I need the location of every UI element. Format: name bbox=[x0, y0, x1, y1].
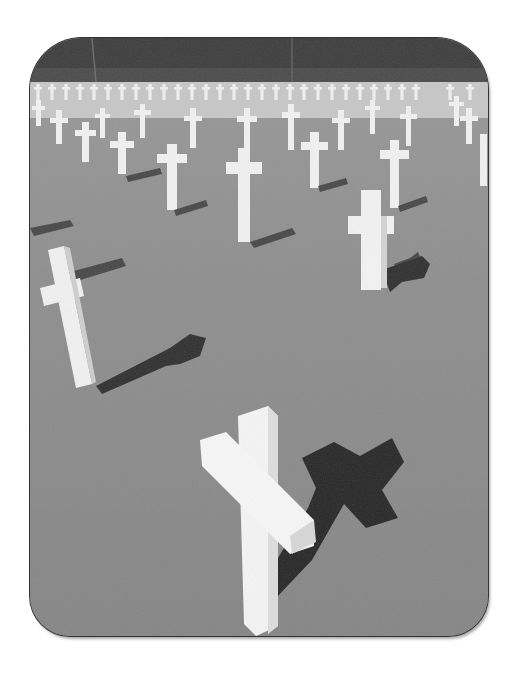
photo-frame bbox=[30, 38, 488, 636]
cemetery-photo bbox=[30, 38, 488, 636]
